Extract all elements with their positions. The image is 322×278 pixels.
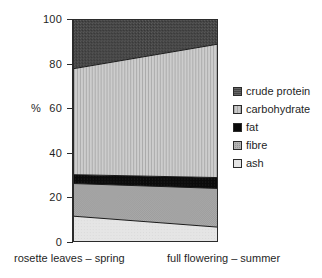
legend-item-fat[interactable]: fat [233, 120, 319, 134]
area-bands [74, 20, 217, 241]
legend-label: fibre [246, 140, 267, 151]
legend-label: crude protein [246, 86, 310, 97]
x-category-label-full-flowering-summer: full flowering – summer [167, 252, 280, 265]
legend-item-fibre[interactable]: fibre [233, 138, 319, 152]
legend-swatch-carbohydrate-icon [233, 105, 242, 114]
chart-legend: crude proteincarbohydratefatfibreash [233, 84, 319, 174]
y-tick-label-100: 100 [10, 14, 62, 25]
legend-label: carbohydrate [246, 104, 310, 115]
x-category-label-rosette-leaves-spring: rosette leaves – spring [14, 252, 125, 265]
legend-item-ash[interactable]: ash [233, 156, 319, 170]
y-tick-label-20: 20 [10, 192, 62, 203]
y-tick-label-60: 60 [10, 103, 62, 114]
legend-swatch-fibre-icon [233, 141, 242, 150]
legend-item-carbohydrate[interactable]: carbohydrate [233, 102, 319, 116]
chart-figure: % 020406080100 [0, 0, 322, 278]
y-tick-0 [67, 242, 73, 243]
legend-swatch-ash-icon [233, 159, 242, 168]
stacked-area-svg [74, 20, 217, 241]
y-tick-label-40: 40 [10, 148, 62, 159]
y-tick-label-0: 0 [10, 237, 62, 248]
y-tick-label-80: 80 [10, 59, 62, 70]
legend-label: fat [246, 122, 258, 133]
plot-area [73, 19, 218, 242]
legend-item-crude-protein[interactable]: crude protein [233, 84, 319, 98]
legend-label: ash [246, 158, 264, 169]
legend-swatch-fat-icon [233, 123, 242, 132]
legend-swatch-crude-protein-icon [233, 87, 242, 96]
